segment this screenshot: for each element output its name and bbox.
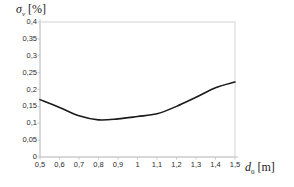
plot-area	[0, 0, 294, 187]
y-axis-tick-labels: 00,050,10,150,20,250,30,350,4	[0, 0, 37, 187]
y-tick-label: 0,25	[3, 69, 37, 77]
y-tick-label: 0,35	[3, 35, 37, 43]
y-tick-label: 0,2	[3, 86, 37, 94]
x-axis-unit: [m]	[258, 160, 275, 174]
y-tick-label: 0,1	[3, 119, 37, 127]
x-axis-title: d0 [m]	[245, 160, 275, 176]
x-axis-subscript: 0	[251, 168, 255, 176]
chart-figure: σv [%] d0 [m] 00,050,10,150,20,250,30,35…	[0, 0, 294, 187]
y-tick-label: 0,3	[3, 52, 37, 60]
x-tick-label: 1,5	[222, 160, 248, 169]
y-tick-label: 0,15	[3, 102, 37, 110]
chart-background	[0, 0, 294, 187]
y-tick-label: 0,05	[3, 136, 37, 144]
y-tick-label: 0,4	[3, 18, 37, 26]
